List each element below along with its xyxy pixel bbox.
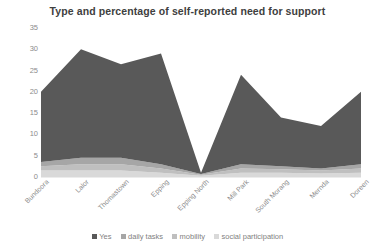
- x-axis-tick-label: Mernda: [308, 178, 330, 200]
- y-axis-tick-label: 30: [18, 45, 38, 53]
- chart-legend: Yesdaily tasksmobilitysocial participati…: [0, 232, 375, 241]
- legend-item-label: Yes: [99, 232, 111, 241]
- y-axis-tick-label: 15: [18, 109, 38, 117]
- legend-swatch-icon: [121, 234, 126, 239]
- x-axis-tick-label: Lalor: [74, 178, 90, 194]
- y-axis: 05101520253035: [18, 24, 38, 182]
- area-series-Yes: [41, 49, 361, 174]
- legend-swatch-icon: [92, 234, 97, 239]
- x-axis-tick-label: Mill Park: [226, 178, 250, 202]
- legend-item[interactable]: mobility: [172, 232, 205, 241]
- legend-item-label: social participation: [222, 232, 284, 241]
- y-axis-tick-label: 20: [18, 88, 38, 96]
- chart-container: Type and percentage of self-reported nee…: [0, 0, 375, 252]
- y-axis-tick-label: 25: [18, 67, 38, 75]
- legend-item[interactable]: social participation: [214, 232, 283, 241]
- x-axis-tick-label: South Morang: [254, 178, 290, 214]
- y-axis-tick-label: 0: [18, 173, 38, 181]
- legend-item[interactable]: daily tasks: [121, 232, 164, 241]
- legend-item-label: mobility: [180, 232, 205, 241]
- y-axis-tick-label: 5: [18, 152, 38, 160]
- legend-item-label: daily tasks: [128, 232, 163, 241]
- x-axis: BundooraLalorThomastownEppingEpping Nort…: [41, 178, 361, 226]
- x-axis-tick-label: Epping: [150, 178, 170, 198]
- x-axis-tick-label: Epping North: [176, 178, 210, 212]
- y-axis-tick-label: 35: [18, 24, 38, 32]
- legend-swatch-icon: [172, 234, 177, 239]
- y-axis-tick-label: 10: [18, 130, 38, 138]
- legend-swatch-icon: [214, 234, 219, 239]
- x-axis-tick-label: Thomastown: [97, 178, 130, 211]
- legend-item[interactable]: Yes: [92, 232, 112, 241]
